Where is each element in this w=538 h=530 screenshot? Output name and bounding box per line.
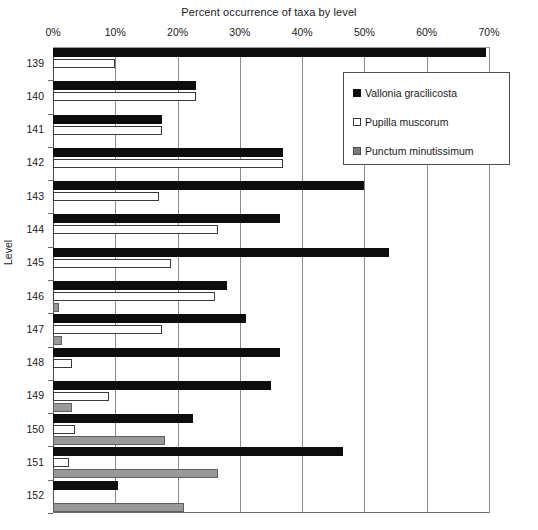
bar bbox=[53, 348, 280, 357]
y-axis-tick-label: 144 bbox=[26, 223, 44, 235]
legend-swatch-icon bbox=[353, 147, 361, 155]
x-axis-tick-label: 0% bbox=[45, 26, 60, 38]
y-axis-tick-label: 148 bbox=[26, 356, 44, 368]
x-axis-tick-label: 50% bbox=[354, 26, 375, 38]
plot-bottom-rule bbox=[53, 512, 489, 513]
bar bbox=[53, 469, 218, 478]
chart-container: Percent occurrence of taxa by level 0%10… bbox=[0, 0, 538, 530]
chart-title: Percent occurrence of taxa by level bbox=[0, 6, 538, 18]
x-axis-tick-label: 60% bbox=[416, 26, 437, 38]
y-axis-ticks: 1391401411421431441451461471481491501511… bbox=[0, 47, 53, 513]
bar bbox=[53, 81, 196, 90]
y-axis-tick-label: 150 bbox=[26, 423, 44, 435]
bar bbox=[53, 48, 486, 57]
y-axis-tick-label: 147 bbox=[26, 323, 44, 335]
legend-item: Punctum minutissimum bbox=[353, 145, 474, 157]
bar bbox=[53, 159, 283, 168]
bar bbox=[53, 148, 283, 157]
bar bbox=[53, 192, 159, 201]
legend-item: Pupilla muscorum bbox=[353, 116, 448, 128]
bar bbox=[53, 303, 59, 312]
chart-legend: Vallonia gracilicostaPupilla muscorumPun… bbox=[343, 72, 510, 165]
legend-label: Punctum minutissimum bbox=[365, 145, 474, 157]
y-axis-tick-label: 139 bbox=[26, 57, 44, 69]
bar bbox=[53, 314, 246, 323]
y-axis-tick-label: 141 bbox=[26, 123, 44, 135]
y-axis-tick-label: 140 bbox=[26, 90, 44, 102]
gridline bbox=[302, 47, 303, 513]
x-axis-tick-label: 40% bbox=[292, 26, 313, 38]
legend-label: Pupilla muscorum bbox=[365, 116, 448, 128]
bar bbox=[53, 458, 69, 467]
bar bbox=[53, 281, 227, 290]
x-axis-tick-label: 10% bbox=[105, 26, 126, 38]
legend-swatch-icon bbox=[353, 89, 361, 97]
bar bbox=[53, 425, 75, 434]
legend-item: Vallonia gracilicosta bbox=[353, 87, 457, 99]
bar bbox=[53, 214, 280, 223]
y-axis-tick-label: 146 bbox=[26, 290, 44, 302]
bar bbox=[53, 248, 389, 257]
x-axis-tick-label: 20% bbox=[167, 26, 188, 38]
y-axis-tick-label: 151 bbox=[26, 456, 44, 468]
bar bbox=[53, 292, 215, 301]
bar bbox=[53, 325, 162, 334]
bar bbox=[53, 181, 364, 190]
y-axis-tick-label: 152 bbox=[26, 489, 44, 501]
bar bbox=[53, 414, 193, 423]
bar bbox=[53, 115, 162, 124]
x-axis-tick-labels: 0%10%20%30%40%50%60%70% bbox=[0, 26, 538, 40]
bar bbox=[53, 392, 109, 401]
bar bbox=[53, 481, 118, 490]
bar bbox=[53, 381, 271, 390]
bar bbox=[53, 92, 196, 101]
bar bbox=[53, 447, 343, 456]
y-axis-tick-label: 143 bbox=[26, 190, 44, 202]
bar bbox=[53, 336, 62, 345]
legend-label: Vallonia gracilicosta bbox=[365, 87, 457, 99]
bar bbox=[53, 59, 115, 68]
bar bbox=[53, 503, 184, 512]
bar bbox=[53, 403, 72, 412]
x-axis-tick-label: 70% bbox=[478, 26, 499, 38]
bar bbox=[53, 225, 218, 234]
y-axis-tick-label: 149 bbox=[26, 389, 44, 401]
x-axis-tick-label: 30% bbox=[229, 26, 250, 38]
bar bbox=[53, 436, 165, 445]
legend-swatch-icon bbox=[353, 118, 361, 126]
gridline bbox=[178, 47, 179, 513]
bar bbox=[53, 259, 171, 268]
y-axis-tick-label: 145 bbox=[26, 256, 44, 268]
y-axis-tick-label: 142 bbox=[26, 156, 44, 168]
bar bbox=[53, 359, 72, 368]
bar bbox=[53, 126, 162, 135]
gridline bbox=[240, 47, 241, 513]
y-axis-tick-mark bbox=[48, 513, 53, 514]
